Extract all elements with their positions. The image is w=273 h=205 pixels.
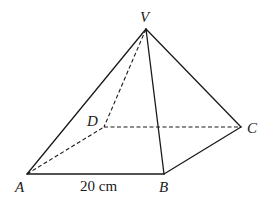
vertex-label-C: C [247, 120, 258, 136]
edge-VA [27, 29, 146, 174]
edge-VB [146, 29, 164, 174]
edge-AD [27, 127, 104, 174]
pyramid-diagram: V A B C D 20 cm [0, 0, 273, 205]
edge-BC [164, 127, 241, 174]
vertex-label-D: D [86, 113, 98, 129]
vertex-label-V: V [140, 9, 151, 25]
dimension-label-AB: 20 cm [80, 178, 117, 194]
vertex-label-B: B [159, 179, 168, 195]
edge-VD [104, 29, 146, 127]
edge-VC [146, 29, 241, 127]
vertex-label-A: A [14, 179, 25, 195]
